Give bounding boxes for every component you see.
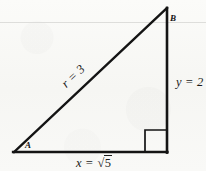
vertex-label-a: A [25, 141, 31, 150]
hypotenuse-line [14, 8, 167, 152]
triangle-figure: r = 3 y = 2 x = √5 A B [0, 0, 206, 171]
radicand-value: 5 [104, 155, 112, 169]
horizontal-leg-label-prefix: x = [76, 156, 97, 170]
horizontal-leg-label: x = √5 [76, 155, 112, 169]
vertex-label-b: B [170, 14, 176, 23]
right-angle-marker-icon [145, 130, 167, 152]
radical-expression: √5 [97, 155, 112, 169]
vertical-leg-label: y = 2 [176, 76, 203, 89]
